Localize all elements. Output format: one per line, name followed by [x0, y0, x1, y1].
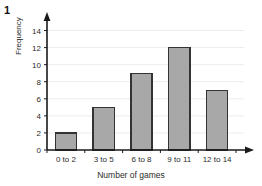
x-tick-label: 3 to 5 — [94, 155, 115, 164]
y-tick-label: 4 — [37, 112, 42, 121]
bar — [169, 48, 190, 150]
x-axis-arrowhead — [245, 147, 254, 154]
bar — [55, 133, 76, 150]
figure: 1 Frequency 02468101214 0 to 23 to 56 to… — [0, 0, 262, 186]
y-axis-arrowhead — [44, 12, 51, 21]
y-tick-label: 14 — [32, 27, 41, 36]
bar — [93, 107, 114, 150]
x-tick-label: 6 to 8 — [131, 155, 152, 164]
y-tick-label: 6 — [37, 95, 42, 104]
y-tick-label: 8 — [37, 78, 42, 87]
x-tick-label: 12 to 14 — [203, 155, 232, 164]
y-axis-ticks: 02468101214 — [32, 27, 47, 155]
x-tick-label: 0 to 2 — [56, 155, 77, 164]
x-axis-title: Number of games — [0, 170, 262, 181]
x-tick-label: 9 to 11 — [167, 155, 191, 164]
y-tick-label: 12 — [32, 44, 41, 53]
x-axis-category-labels: 0 to 23 to 56 to 89 to 1112 to 14 — [56, 155, 232, 164]
y-tick-label: 10 — [32, 61, 41, 70]
bar-chart: 02468101214 0 to 23 to 56 to 89 to 1112 … — [0, 0, 262, 186]
y-tick-label: 2 — [37, 129, 42, 138]
y-tick-label: 0 — [37, 146, 42, 155]
bar — [207, 90, 228, 150]
bar — [131, 73, 152, 150]
